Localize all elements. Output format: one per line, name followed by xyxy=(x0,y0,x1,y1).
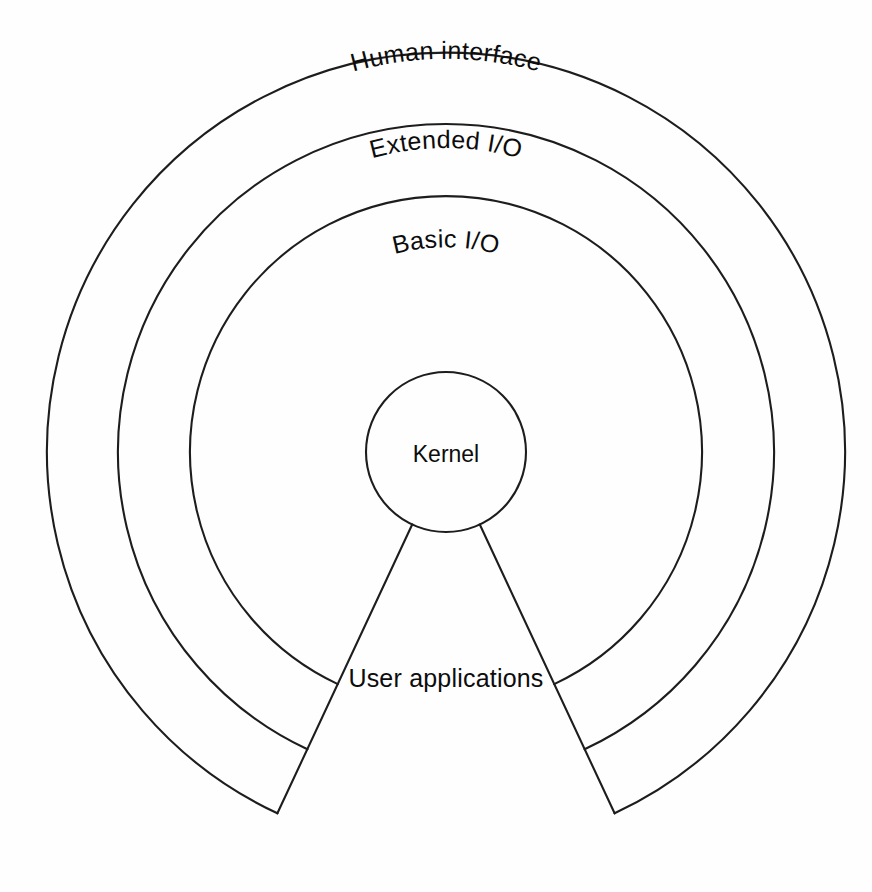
label-user-applications: User applications xyxy=(348,664,543,692)
ring-extended-io-outer-arc xyxy=(118,124,774,749)
label-basic-io: Basic I/O xyxy=(389,224,502,259)
label-extended-io: Extended I/O xyxy=(367,125,526,163)
label-kernel: Kernel xyxy=(413,441,479,467)
label-human-interface: Human interface xyxy=(347,36,544,77)
ring-human-interface-outer-arc xyxy=(47,53,845,814)
diagram-canvas: Human interface Extended I/O Basic I/O K… xyxy=(0,0,872,892)
onion-diagram: Human interface Extended I/O Basic I/O K… xyxy=(0,0,872,892)
